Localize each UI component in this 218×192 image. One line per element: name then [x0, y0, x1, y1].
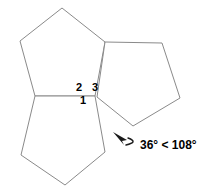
- angle-label-3: 3: [92, 82, 98, 93]
- angle-label-2: 2: [76, 82, 82, 93]
- angle-label-1: 1: [80, 95, 86, 106]
- pentagon-gap-figure: 2 3 1 36° < 108°: [0, 0, 218, 192]
- right-pentagon: [97, 42, 180, 126]
- lower-left-pentagon: [21, 96, 105, 185]
- angle-comparison-annotation: 36° < 108°: [140, 139, 197, 151]
- figure-canvas: [0, 0, 218, 192]
- annotation-curve: [126, 138, 133, 145]
- annotation-arrowhead-icon: [113, 132, 127, 145]
